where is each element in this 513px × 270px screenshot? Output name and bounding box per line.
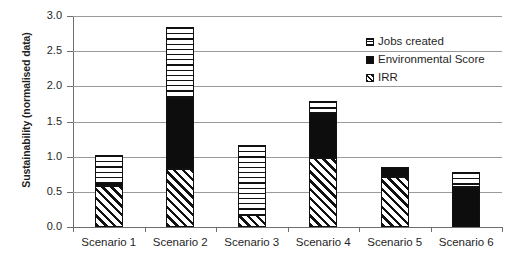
- bar-segment[interactable]: [381, 177, 409, 227]
- y-tick-label: 1.0: [24, 151, 62, 162]
- gridline: [73, 122, 502, 123]
- y-tick-label: 2.0: [24, 80, 62, 91]
- chart-legend: Jobs createdEnvironmental ScoreIRR: [366, 33, 512, 87]
- bar-segment[interactable]: [166, 169, 194, 227]
- bar-segment[interactable]: [309, 101, 337, 113]
- legend-swatch-icon: [366, 56, 374, 64]
- legend-item[interactable]: IRR: [366, 69, 512, 86]
- x-tick-mark: [145, 227, 146, 232]
- legend-label: Jobs created: [378, 36, 444, 48]
- legend-swatch-icon: [366, 74, 374, 82]
- sustainability-stacked-bar-chart: Sustainability (normalised data) 3.02.52…: [0, 0, 513, 270]
- bar-segment[interactable]: [452, 187, 480, 227]
- bar-segment[interactable]: [166, 27, 194, 97]
- gridline: [73, 16, 502, 17]
- y-tick-label: 1.5: [24, 116, 62, 127]
- y-tick-label: 2.5: [24, 45, 62, 56]
- y-tick-mark: [67, 122, 73, 123]
- legend-label: Environmental Score: [378, 54, 485, 66]
- x-tick-mark: [288, 227, 289, 232]
- y-tick-label: 0.0: [24, 221, 62, 232]
- y-tick-mark: [67, 16, 73, 17]
- bar-segment[interactable]: [381, 167, 409, 177]
- x-tick-mark: [502, 227, 503, 232]
- bar-segment[interactable]: [309, 113, 337, 158]
- bar-segment[interactable]: [238, 215, 266, 227]
- bar-segment[interactable]: [309, 158, 337, 227]
- y-tick-label: 3.0: [24, 10, 62, 21]
- x-axis-label: Scenario 6: [421, 236, 511, 248]
- gridline: [73, 192, 502, 193]
- legend-item[interactable]: Environmental Score: [366, 51, 512, 68]
- legend-swatch-icon: [366, 38, 374, 46]
- y-tick-mark: [67, 227, 73, 228]
- legend-label: IRR: [378, 72, 398, 84]
- legend-item[interactable]: Jobs created: [366, 33, 512, 50]
- bar-segment[interactable]: [452, 172, 480, 187]
- bar-segment[interactable]: [95, 183, 123, 187]
- bar-segment[interactable]: [166, 98, 194, 169]
- y-tick-mark: [67, 157, 73, 158]
- bar-segment[interactable]: [238, 145, 266, 215]
- x-tick-mark: [359, 227, 360, 232]
- x-tick-mark: [73, 227, 74, 232]
- bar-segment[interactable]: [95, 186, 123, 227]
- y-tick-mark: [67, 192, 73, 193]
- x-tick-mark: [216, 227, 217, 232]
- y-tick-mark: [67, 86, 73, 87]
- x-tick-mark: [431, 227, 432, 232]
- gridline: [73, 157, 502, 158]
- bar-segment[interactable]: [95, 155, 123, 183]
- y-tick-label: 0.5: [24, 186, 62, 197]
- y-tick-mark: [67, 51, 73, 52]
